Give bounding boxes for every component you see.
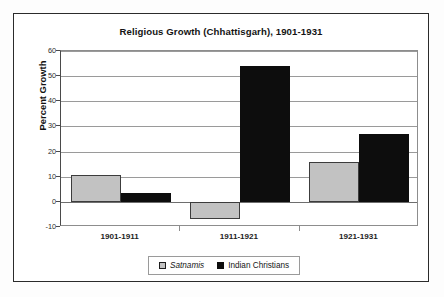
y-axis-tick-label: 10 [30, 171, 56, 180]
y-axis-tick-mark [56, 176, 60, 177]
y-axis-tick-label: 0 [30, 196, 56, 205]
gray-square-swatch [159, 262, 166, 269]
bar-indian-christians-1901-1911 [121, 193, 171, 202]
gridline [61, 101, 417, 102]
y-axis-tick-mark [56, 75, 60, 76]
chart-title: Religious Growth (Chhattisgarh), 1901-19… [13, 26, 429, 37]
legend-label: Indian Christians [228, 261, 289, 270]
y-axis-tick-mark [56, 226, 60, 227]
y-axis-tick-label: 20 [30, 146, 56, 155]
bar-satnamis-1911-1921 [190, 202, 240, 220]
bar-satnamis-1921-1931 [309, 162, 359, 202]
plot-area [60, 50, 418, 226]
y-axis-tick-mark [56, 50, 60, 51]
black-square-swatch [217, 262, 224, 269]
y-axis-tick-mark [56, 151, 60, 152]
gridline [61, 76, 417, 77]
x-axis-tick-mark [299, 226, 300, 231]
bar-indian-christians-1911-1921 [240, 66, 290, 202]
y-axis-tick-mark [56, 201, 60, 202]
y-axis-tick-mark [56, 100, 60, 101]
legend-label: Satnamis [170, 261, 204, 270]
y-axis-tick-label: 50 [30, 71, 56, 80]
y-axis-tick-labels: 6050403020100-10 [28, 50, 56, 226]
chart-figure: Religious Growth (Chhattisgarh), 1901-19… [0, 0, 444, 297]
y-axis-tick-label: 30 [30, 121, 56, 130]
bar-indian-christians-1921-1931 [359, 134, 409, 202]
chart-legend: SatnamisIndian Christians [148, 256, 300, 275]
gridline [61, 126, 417, 127]
y-axis-tick-label: 40 [30, 96, 56, 105]
bar-satnamis-1901-1911 [71, 175, 121, 201]
x-axis-tick-mark [179, 226, 180, 231]
y-axis-tick-label: -10 [30, 222, 56, 231]
y-axis-tick-mark [56, 125, 60, 126]
legend-entry-indian-christians: Indian Christians [217, 261, 289, 270]
gridline [61, 51, 417, 52]
x-axis-tick-label: 1901-1911 [60, 232, 180, 241]
x-axis-tick-label: 1921-1931 [298, 232, 418, 241]
y-axis-tick-label: 60 [30, 46, 56, 55]
x-axis-tick-label: 1911-1921 [179, 232, 299, 241]
legend-entry-satnamis: Satnamis [159, 261, 204, 270]
